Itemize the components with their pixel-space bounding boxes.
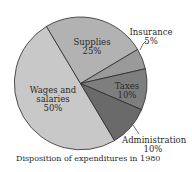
taxes-label-pct: 10% (112, 91, 142, 100)
label-wages: Wages and salaries 50% (28, 86, 78, 113)
administration-label-pct: 10% (122, 145, 184, 154)
wages-label-pct: 50% (28, 104, 78, 113)
label-insurance: Insurance 5% (128, 28, 174, 46)
chart-caption: Disposition of expenditures in 1980 (16, 154, 160, 163)
supplies-label-pct: 25% (72, 47, 112, 56)
insurance-label-pct: 5% (128, 37, 174, 46)
label-administration: Administration 10% (122, 136, 184, 154)
label-taxes: Taxes 10% (112, 82, 142, 100)
label-supplies: Supplies 25% (72, 38, 112, 56)
administration-leader-line (133, 125, 139, 134)
